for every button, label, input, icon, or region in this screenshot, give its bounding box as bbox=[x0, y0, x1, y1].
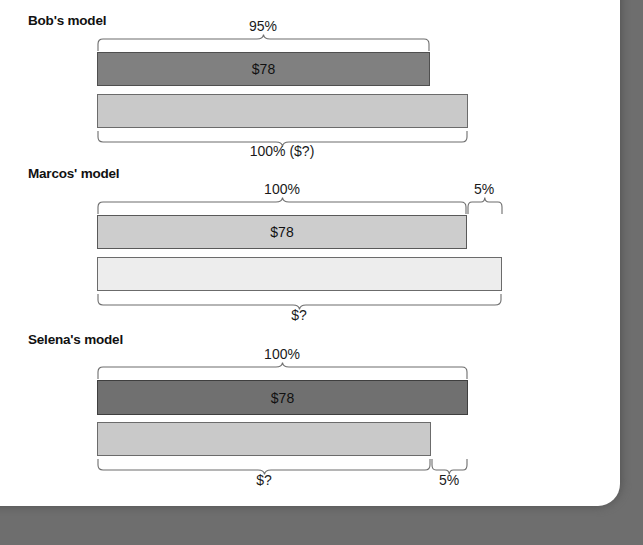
heading-bobs-model: Bob's model bbox=[28, 13, 106, 28]
bar-label-marcos-top: $78 bbox=[270, 225, 293, 239]
heading-marcos-model: Marcos' model bbox=[28, 166, 119, 181]
brace-marcos-top-5 bbox=[467, 201, 503, 215]
bar-bob-top: $78 bbox=[97, 52, 430, 86]
label-selena-bottom-brace-5: 5% bbox=[439, 473, 459, 487]
bar-selena-bottom bbox=[97, 422, 431, 456]
models-comparison-diagram: Bob's model 95% $78 100% ($?) Marcos' mo… bbox=[0, 0, 643, 545]
heading-selena-model: Selena's model bbox=[28, 332, 123, 347]
label-bob-bottom-brace: 100% ($?) bbox=[250, 144, 315, 158]
brace-marcos-top-100 bbox=[97, 201, 467, 215]
label-marcos-brace-100: 100% bbox=[264, 182, 300, 196]
label-marcos-bottom-brace: $? bbox=[291, 308, 307, 322]
bar-marcos-top: $78 bbox=[97, 215, 467, 249]
label-selena-top-brace: 100% bbox=[264, 347, 300, 361]
brace-selena-bottom-q bbox=[97, 458, 431, 472]
bar-selena-top: $78 bbox=[97, 380, 468, 415]
label-bob-top-brace: 95% bbox=[249, 19, 277, 33]
brace-selena-bottom-5 bbox=[431, 458, 468, 472]
brace-bob-bottom bbox=[97, 130, 468, 144]
label-marcos-brace-5: 5% bbox=[474, 182, 494, 196]
bar-label-selena-top: $78 bbox=[271, 391, 294, 405]
brace-marcos-bottom bbox=[97, 293, 502, 307]
brace-bob-top bbox=[97, 38, 430, 52]
bar-bob-bottom bbox=[97, 94, 468, 128]
bar-marcos-bottom bbox=[97, 257, 502, 291]
brace-selena-top bbox=[97, 366, 468, 380]
label-selena-bottom-brace-q: $? bbox=[256, 473, 272, 487]
bar-label-bob-top: $78 bbox=[252, 62, 275, 76]
